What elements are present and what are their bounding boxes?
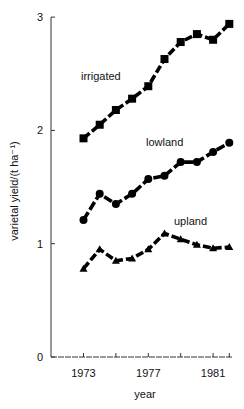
yield-line-chart: 0123197319771981yearvarietal yield/(t ha…: [0, 0, 244, 409]
y-tick-label: 1: [37, 238, 43, 250]
square-marker: [80, 134, 88, 142]
square-marker: [209, 36, 217, 44]
square-marker: [177, 38, 185, 46]
series-label-lowland: lowland: [146, 136, 183, 148]
y-tick-label: 0: [37, 351, 43, 363]
x-axis-title: year: [134, 388, 156, 400]
labels-group: irrigatedlowlandupland: [81, 70, 207, 227]
square-marker: [225, 20, 233, 28]
x-tick-label: 1973: [71, 367, 95, 379]
y-tick-label: 2: [37, 124, 43, 136]
circle-marker: [96, 190, 104, 198]
circle-marker: [128, 190, 136, 198]
square-marker: [144, 82, 152, 90]
triangle-marker: [96, 245, 104, 252]
circle-marker: [161, 172, 169, 180]
circle-marker: [144, 175, 152, 183]
circle-marker: [112, 200, 120, 208]
series-label-upland: upland: [174, 215, 207, 227]
circle-marker: [209, 148, 217, 156]
square-marker: [161, 55, 169, 63]
square-marker: [128, 95, 136, 103]
series-label-irrigated: irrigated: [81, 70, 121, 82]
square-marker: [112, 106, 120, 114]
circle-marker: [193, 158, 201, 166]
y-tick-label: 3: [37, 11, 43, 23]
x-tick-label: 1977: [136, 367, 160, 379]
x-tick-label: 1981: [201, 367, 225, 379]
y-axis-title: varietal yield/(t ha⁻¹): [8, 141, 20, 241]
series-line-upland: [84, 234, 230, 269]
circle-marker: [177, 158, 185, 166]
square-marker: [96, 121, 104, 129]
square-marker: [193, 30, 201, 38]
series-line-lowland: [84, 143, 230, 220]
circle-marker: [80, 216, 88, 224]
circle-marker: [225, 139, 233, 147]
